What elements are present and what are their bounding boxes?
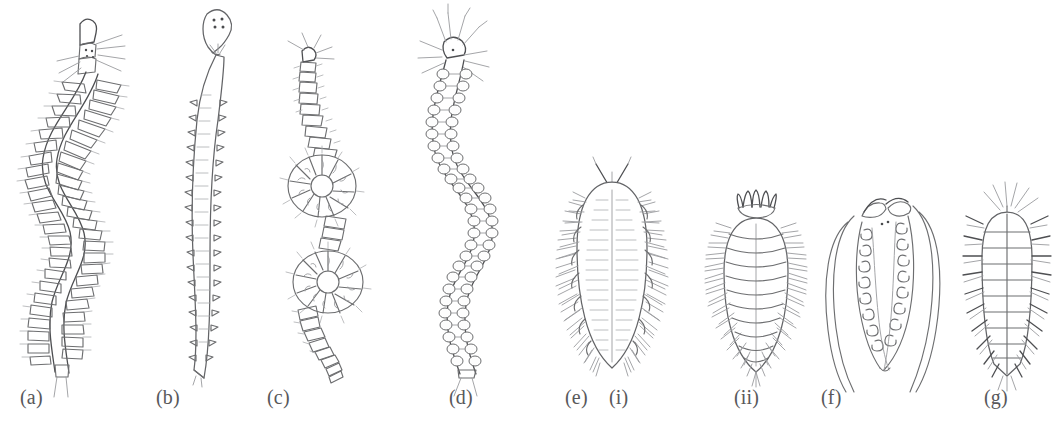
specimen-g-drawing <box>963 182 1051 391</box>
specimen-e-ii-drawing <box>705 190 807 387</box>
panel-label-e: (e) <box>565 386 588 409</box>
specimen-b <box>160 0 265 390</box>
specimen-a <box>8 0 158 390</box>
panel-label-c: (c) <box>267 386 290 409</box>
figure-plate: (a) (b) (c) (d) (e) (i) (ii) (f) (g) <box>0 0 1057 424</box>
specimen-d <box>398 0 528 390</box>
specimen-c-drawing <box>280 33 371 383</box>
specimen-f-drawing <box>826 198 940 392</box>
specimen-g <box>960 0 1055 390</box>
specimen-b-drawing <box>185 10 232 387</box>
panel-label-e-i: (i) <box>609 386 628 409</box>
panel-label-g: (g) <box>984 386 1008 409</box>
specimen-d-drawing <box>418 4 498 396</box>
panel-label-a: (a) <box>20 386 43 409</box>
panel-label-d: (d) <box>449 386 473 409</box>
specimen-c <box>266 0 391 390</box>
panel-label-f: (f) <box>821 386 842 409</box>
caption-row: (a) (b) (c) (d) (e) (i) (ii) (f) (g) <box>0 386 1057 424</box>
specimen-a-drawing <box>17 19 129 397</box>
panel-label-b: (b) <box>156 386 180 409</box>
specimen-e-ii <box>698 0 813 390</box>
specimen-f <box>818 0 953 390</box>
panel-label-e-ii: (ii) <box>734 386 759 409</box>
specimen-e-i-drawing <box>556 157 668 376</box>
specimen-e-i <box>552 0 672 390</box>
